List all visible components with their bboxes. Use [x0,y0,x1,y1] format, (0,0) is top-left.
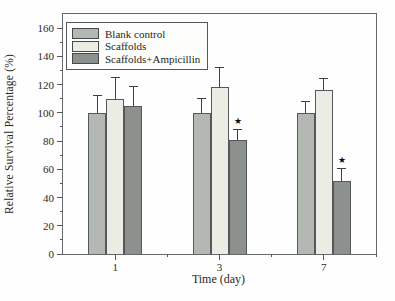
error-bar-line [323,79,324,90]
y-axis-minor-tick [60,211,63,212]
y-axis-tick-label: 100 [6,107,54,119]
error-bar-cap [129,86,138,87]
x-axis-title: Time (day) [62,272,375,287]
y-axis-tick-label: 0 [6,248,54,260]
y-axis-major-tick [57,225,63,226]
error-bar-cap [197,98,206,99]
y-axis-major-tick [57,141,63,142]
y-axis-minor-tick [60,126,63,127]
y-axis-minor-tick [60,98,63,99]
y-axis-minor-tick [60,42,63,43]
legend-label: Scaffolds [105,40,146,52]
x-axis-minor-tick [271,254,272,257]
error-bar-cap [233,129,242,130]
error-bar-line [201,99,202,113]
x-axis-minor-tick [167,254,168,257]
error-bar-cap [301,101,310,102]
x-axis-major-tick [323,254,324,260]
error-bar-line [115,78,116,99]
y-axis-major-tick [57,197,63,198]
y-axis-minor-tick [60,70,63,71]
y-axis-major-tick [57,56,63,57]
legend-label: Scaffolds+Ampicillin [105,53,200,65]
y-axis-tick-label: 80 [6,135,54,147]
y-axis-major-tick [57,28,63,29]
bar-chart-figure: Relative Survival Percentage (%) Blank c… [0,0,395,301]
bar-scaffolds-day1 [106,99,124,254]
legend: Blank controlScaffoldsScaffolds+Ampicill… [66,22,208,70]
y-axis-tick-label: 40 [6,192,54,204]
legend-label: Blank control [105,28,165,40]
y-axis-tick-label: 120 [6,79,54,91]
legend-swatch [72,41,99,52]
bar-blank-control-day3 [193,113,211,254]
error-bar-cap [319,78,328,79]
error-bar-line [341,169,342,180]
y-axis-tick-label: 140 [6,50,54,62]
y-axis-tick-label: 160 [6,22,54,34]
significance-star: ★ [229,117,247,126]
y-axis-major-tick [57,84,63,85]
bar-scaffolds-ampicillin-day7 [333,181,351,254]
bar-scaffolds-ampicillin-day3 [229,140,247,254]
error-bar-cap [93,95,102,96]
y-axis-minor-tick [60,183,63,184]
y-axis-tick-label: 20 [6,220,54,232]
plot-area: Blank controlScaffoldsScaffolds+Ampicill… [62,13,377,255]
y-axis-major-tick [57,169,63,170]
bar-blank-control-day7 [297,113,315,254]
legend-item: Scaffolds [72,40,200,52]
error-bar-cap [111,77,120,78]
bar-blank-control-day1 [88,113,106,254]
error-bar-line [133,87,134,105]
x-axis-major-tick [219,254,220,260]
x-axis-major-tick [115,254,116,260]
error-bar-cap [337,168,346,169]
legend-swatch [72,28,99,39]
error-bar-line [219,68,220,88]
legend-swatch [72,53,99,64]
bar-scaffolds-day7 [315,90,333,254]
significance-star: ★ [333,156,351,165]
error-bar-line [305,102,306,113]
error-bar-cap [215,67,224,68]
error-bar-line [97,96,98,113]
error-bar-line [237,130,238,140]
y-axis-major-tick [57,254,63,255]
bar-scaffolds-ampicillin-day1 [124,106,142,254]
x-axis-minor-tick [376,254,377,257]
y-axis-major-tick [57,112,63,113]
bar-scaffolds-day3 [211,87,229,254]
legend-item: Blank control [72,28,200,40]
y-axis-minor-tick [60,239,63,240]
legend-item: Scaffolds+Ampicillin [72,53,200,65]
y-axis-tick-label: 60 [6,163,54,175]
y-axis-minor-tick [60,155,63,156]
